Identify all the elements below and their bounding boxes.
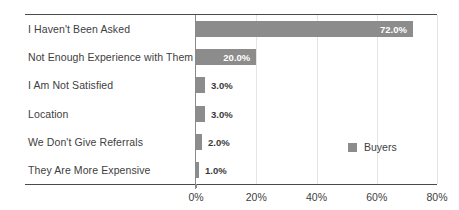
x-axis-line (25, 184, 437, 185)
legend-label-buyers: Buyers (364, 141, 397, 153)
bar (196, 106, 205, 122)
bar-value-label: 3.0% (211, 108, 233, 119)
category-label: Not Enough Experience with Them (28, 51, 193, 63)
bar (196, 162, 199, 178)
bar-row: They Are More Expensive1.0% (0, 156, 459, 184)
bar (196, 134, 202, 150)
bar-chart: I Haven't Been Asked72.0%Not Enough Expe… (0, 0, 459, 210)
tick-mark-0 (196, 184, 197, 188)
x-tick-label: 0% (188, 191, 203, 203)
bar-value-label: 20.0% (223, 52, 250, 63)
bar (196, 77, 205, 93)
bar-value-label: 3.0% (211, 80, 233, 91)
bar-value-label: 72.0% (380, 24, 407, 35)
x-tick-label: 20% (246, 191, 267, 203)
bar-rows: I Haven't Been Asked72.0%Not Enough Expe… (0, 15, 459, 184)
category-label: I Haven't Been Asked (28, 23, 130, 35)
bar-value-label: 2.0% (208, 136, 230, 147)
category-label: I Am Not Satisfied (28, 79, 113, 91)
bar-row: Location3.0% (0, 100, 459, 128)
x-tick-label: 40% (306, 191, 327, 203)
x-tick-label: 60% (366, 191, 387, 203)
category-label: They Are More Expensive (28, 164, 151, 176)
bar-value-label: 1.0% (205, 164, 227, 175)
legend-swatch-buyers (348, 143, 357, 152)
category-label: Location (28, 108, 69, 120)
category-label: We Don't Give Referrals (28, 136, 143, 148)
bar-row: Not Enough Experience with Them20.0% (0, 43, 459, 71)
bar-row: I Haven't Been Asked72.0% (0, 15, 459, 43)
legend: Buyers (348, 141, 397, 153)
x-tick-label: 80% (426, 191, 447, 203)
bar-row: I Am Not Satisfied3.0% (0, 71, 459, 99)
